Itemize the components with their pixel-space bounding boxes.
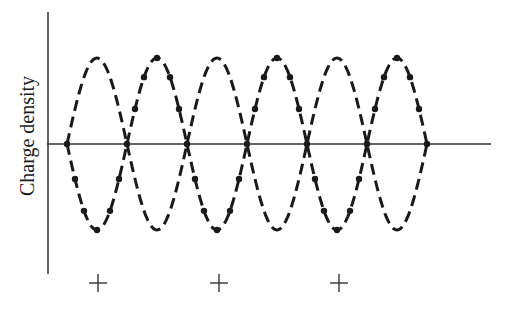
wave-dot (364, 141, 370, 147)
wave-dot (274, 55, 280, 61)
wave-dot (416, 106, 422, 112)
wave-dot (244, 141, 250, 147)
charge-density-figure: Charge density (0, 0, 505, 315)
wave-dot (176, 106, 182, 112)
wave-dot (381, 74, 387, 80)
wave-dot (201, 208, 207, 214)
wave-dot (154, 55, 160, 61)
plus-icon (89, 274, 107, 292)
wave-dot (141, 74, 147, 80)
wave-dot (227, 208, 233, 214)
wave-dot (236, 176, 242, 182)
plus-icon (210, 274, 228, 292)
wave-dot (347, 208, 353, 214)
wave-dot (321, 208, 327, 214)
wave-dot (132, 106, 138, 112)
wave-dot (64, 141, 70, 147)
wave-dot (424, 141, 430, 147)
wave-dot (107, 208, 113, 214)
wave-dot (184, 141, 190, 147)
wave-dot (407, 74, 413, 80)
wave-dot (356, 176, 362, 182)
wave-dot (287, 74, 293, 80)
wave-dot (214, 227, 220, 233)
wave-dot (372, 106, 378, 112)
plus-markers (89, 274, 348, 292)
wave-dot (252, 106, 258, 112)
wave-dot (116, 176, 122, 182)
plus-icon (330, 274, 348, 292)
wave-dot (124, 141, 130, 147)
plot-area (0, 0, 505, 315)
wave-dot (94, 227, 100, 233)
wave-dot (261, 74, 267, 80)
wave-dot (312, 176, 318, 182)
wave-dot (167, 74, 173, 80)
wave-dot (192, 176, 198, 182)
wave-dot (72, 176, 78, 182)
wave-dot (304, 141, 310, 147)
wave-dot (81, 208, 87, 214)
y-axis-label: Charge density (16, 76, 39, 196)
wave-dot (296, 106, 302, 112)
wave-dot (334, 227, 340, 233)
wave-dot (394, 55, 400, 61)
